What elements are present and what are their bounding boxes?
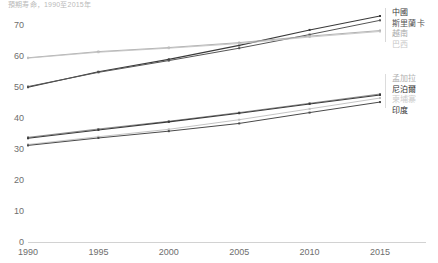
legend-upper-cluster: 中國斯里蘭卡越南巴西 xyxy=(392,8,425,50)
legend-upper-item-3[interactable]: 巴西 xyxy=(392,40,425,51)
data-point xyxy=(97,71,99,73)
data-point xyxy=(168,121,170,123)
data-point xyxy=(379,19,381,21)
data-point xyxy=(97,51,99,53)
data-point xyxy=(379,15,381,17)
series-lines xyxy=(28,16,380,242)
data-point xyxy=(309,112,311,114)
x-axis-line xyxy=(28,242,426,243)
data-point xyxy=(379,97,381,99)
x-tick-label-1: 1995 xyxy=(88,247,108,257)
legend-lower-cluster: 孟加拉尼泊爾柬埔寨印度 xyxy=(392,74,417,116)
series-line-4 xyxy=(28,94,380,137)
x-tick-label-0: 1990 xyxy=(18,247,38,257)
x-tick-label-5: 2015 xyxy=(370,247,390,257)
y-tick-label-1: 10 xyxy=(2,207,24,216)
x-tick-label-3: 2005 xyxy=(229,247,249,257)
x-tick-label-4: 2010 xyxy=(300,247,320,257)
series-line-0 xyxy=(28,16,380,87)
data-point xyxy=(238,44,240,46)
y-tick-label-6: 60 xyxy=(2,52,24,61)
data-point xyxy=(27,144,29,146)
data-point xyxy=(27,86,29,88)
data-point xyxy=(238,122,240,124)
data-point xyxy=(27,57,29,59)
data-point xyxy=(97,137,99,139)
data-point xyxy=(168,128,170,130)
data-point xyxy=(168,47,170,49)
legend-lower-item-0[interactable]: 孟加拉 xyxy=(392,74,417,85)
data-point xyxy=(27,137,29,139)
y-tick-label-4: 40 xyxy=(2,114,24,123)
legend-upper-item-1[interactable]: 斯里蘭卡 xyxy=(392,19,425,30)
data-point xyxy=(379,101,381,103)
y-tick-label-3: 30 xyxy=(2,145,24,154)
legend-lower-item-2[interactable]: 柬埔寨 xyxy=(392,95,417,106)
data-point xyxy=(238,47,240,49)
x-tick-label-2: 2000 xyxy=(159,247,179,257)
data-point xyxy=(168,130,170,132)
data-point xyxy=(309,108,311,110)
data-point xyxy=(238,119,240,121)
legend-leader-1 xyxy=(385,74,386,108)
data-point xyxy=(379,30,381,32)
legend-leader-0 xyxy=(385,8,386,42)
legend-upper-item-0[interactable]: 中國 xyxy=(392,8,425,19)
data-point xyxy=(309,36,311,38)
data-point xyxy=(168,60,170,62)
data-point xyxy=(238,43,240,45)
data-point xyxy=(309,103,311,105)
y-tick-label-7: 70 xyxy=(2,21,24,30)
line-chart: 預期寿命，1990至2015年 010203040506070 中國斯里蘭卡越南… xyxy=(0,0,438,263)
y-tick-label-2: 20 xyxy=(2,176,24,185)
plot-area xyxy=(28,16,380,242)
series-line-6 xyxy=(28,98,380,144)
legend-upper-item-2[interactable]: 越南 xyxy=(392,29,425,40)
chart-title: 預期寿命，1990至2015年 xyxy=(8,0,91,9)
legend-lower-item-1[interactable]: 尼泊爾 xyxy=(392,85,417,96)
y-tick-label-5: 50 xyxy=(2,83,24,92)
y-tick-label-0: 0 xyxy=(2,238,24,247)
y-axis: 010203040506070 xyxy=(0,16,24,242)
data-point xyxy=(97,129,99,131)
data-point xyxy=(238,112,240,114)
data-point xyxy=(309,29,311,31)
legend-lower-item-3[interactable]: 印度 xyxy=(392,106,417,117)
data-point xyxy=(379,94,381,96)
